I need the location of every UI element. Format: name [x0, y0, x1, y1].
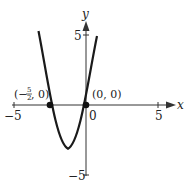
- annotation-close: , 0): [31, 88, 49, 101]
- y-tick-label-neg5: −5: [68, 169, 86, 183]
- point-left-annotation: (− 5 2 , 0): [14, 86, 49, 102]
- point-origin-annotation: (0, 0): [92, 88, 122, 101]
- x-tick-label-zero: 0: [89, 109, 97, 123]
- point-root-left: [47, 102, 54, 109]
- y-axis-label: y: [81, 7, 89, 21]
- parabola-graph: x y −5 0 5 5 −5 (− 5 2 , 0) (0, 0): [0, 0, 192, 188]
- x-axis-label: x: [177, 98, 184, 112]
- annotation-open: (−: [14, 88, 28, 101]
- x-tick-label-neg5: −5: [4, 109, 22, 123]
- x-axis-arrow-icon: [166, 102, 176, 109]
- x-tick-label-pos5: 5: [155, 109, 163, 123]
- y-tick-label-pos5: 5: [74, 29, 82, 43]
- point-origin: [83, 102, 90, 109]
- y-axis-arrow-icon: [83, 21, 90, 31]
